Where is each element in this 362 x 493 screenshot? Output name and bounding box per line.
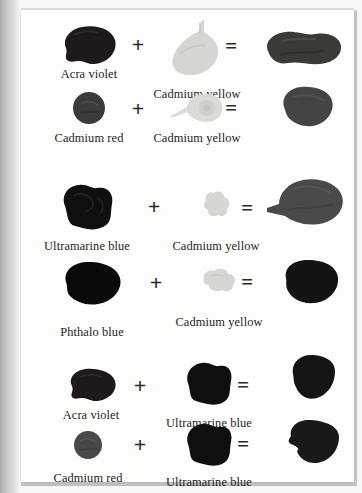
swatch-label-left: Cadmium red <box>37 132 141 144</box>
paint-blob-phthalo-blue <box>35 258 149 310</box>
swatch-label-left: Acra violet <box>39 409 143 421</box>
paint-blob-ultramarine-blue <box>27 180 147 234</box>
swatch-slot-result <box>257 174 355 230</box>
swatch-label-left: Acra violet <box>37 68 141 80</box>
equation-row-phthalo-blue-plus-cadmium-yellow: Phthalo blue + Cadmium yellow = <box>21 258 354 334</box>
paint-blob-mix-result <box>257 174 355 230</box>
swatch-label-right: Cadmium yellow <box>163 316 275 328</box>
swatch-label-left: Ultramarine blue <box>27 240 147 252</box>
swatch-label-right: Ultramarine blue <box>149 476 269 488</box>
paint-blob-mix-result <box>271 351 355 403</box>
operator-equals: = <box>229 434 257 455</box>
operator-equals: = <box>217 36 245 57</box>
equation-row-cadmium-red-plus-cadmium-yellow: Cadmium red + Cadmium yellow = <box>21 90 354 152</box>
swatch-label-right: Cadmium yellow <box>161 240 271 252</box>
swatch-slot-left: Ultramarine blue <box>27 180 147 252</box>
paint-blob-mix-result <box>259 84 355 130</box>
swatch-label-right: Cadmium yellow <box>141 132 253 144</box>
operator-equals: = <box>233 272 261 293</box>
swatch-slot-result <box>269 416 357 468</box>
equation-row-cadmium-red-plus-ultramarine-blue: Cadmium red + Ultramarine blue = <box>21 428 354 490</box>
swatch-slot-result <box>259 84 355 130</box>
equation-row-acra-violet-plus-cadmium-yellow: Acra violet + Cadmium yellow = <box>21 22 354 92</box>
swatch-label-left: Phthalo blue <box>35 326 149 338</box>
swatch-slot-left: Phthalo blue <box>35 258 149 338</box>
scanned-page-background: Acra violet + Cadmium yellow = <box>0 0 362 493</box>
swatch-slot-result <box>253 24 353 72</box>
swatch-slot-result <box>271 351 355 403</box>
paint-blob-mix-result <box>253 24 353 72</box>
paint-blob-mix-result <box>269 256 353 308</box>
paper-sheet: Acra violet + Cadmium yellow = <box>21 10 354 482</box>
operator-equals: = <box>217 98 245 119</box>
paint-blob-mix-result <box>269 416 357 468</box>
swatch-slot-right: Cadmium yellow <box>161 186 271 252</box>
operator-equals: = <box>229 375 257 396</box>
equation-row-ultramarine-blue-plus-cadmium-yellow: Ultramarine blue + Cadmium yellow = <box>21 180 354 256</box>
swatch-slot-result <box>269 256 353 308</box>
swatch-label-left: Cadmium red <box>33 472 143 484</box>
